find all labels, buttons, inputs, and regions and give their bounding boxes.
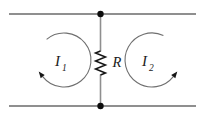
mesh2-current-label: I bbox=[141, 53, 148, 69]
mesh1-current-label: I bbox=[54, 53, 61, 69]
mesh1-loop-arrow-icon bbox=[43, 33, 91, 87]
resistor-icon bbox=[96, 51, 106, 75]
node-dot-top bbox=[97, 11, 103, 17]
mesh2-current-subscript: 2 bbox=[149, 63, 154, 73]
mesh1-current-subscript: 1 bbox=[62, 63, 67, 73]
resistor-label: R bbox=[112, 54, 122, 70]
node-dot-bottom bbox=[97, 103, 103, 109]
mesh2-loop-arrow-icon bbox=[125, 33, 173, 87]
circuit-figure: I 1 I 2 R bbox=[0, 0, 203, 120]
circuit-canvas: I 1 I 2 R bbox=[0, 0, 203, 120]
